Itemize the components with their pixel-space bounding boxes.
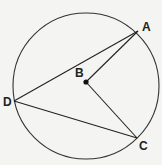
geometry-diagram: A B C D	[0, 0, 162, 165]
label-B: B	[75, 66, 84, 80]
label-A: A	[142, 20, 151, 34]
label-D: D	[3, 95, 12, 109]
center-point-B	[83, 79, 88, 84]
label-C: C	[139, 139, 148, 153]
segment-BC	[86, 82, 137, 138]
circle	[13, 13, 159, 159]
segment-DC	[14, 101, 137, 138]
